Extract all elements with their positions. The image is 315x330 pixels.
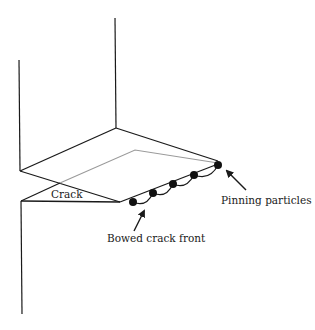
upper-face-back-edge xyxy=(116,128,218,161)
pinning-particle xyxy=(214,161,222,169)
pinning-particle xyxy=(169,180,177,188)
bowed-crack-front-arrow xyxy=(134,211,144,231)
diagram-svg: Crack Pinning particles Bowed crack fron… xyxy=(0,0,315,330)
left-lower-vertical-edge xyxy=(21,201,22,314)
crack-label: Crack xyxy=(51,188,83,200)
pinning-particles-label: Pinning particles xyxy=(221,194,312,206)
crack-front-line xyxy=(120,164,218,202)
back-vertical-edge xyxy=(115,18,116,128)
pinning-particle xyxy=(190,171,198,179)
pinning-particle xyxy=(149,189,157,197)
crack-pinning-diagram: Crack Pinning particles Bowed crack fron… xyxy=(0,0,315,330)
pinning-particle xyxy=(129,198,137,206)
bowed-crack-front-label: Bowed crack front xyxy=(107,232,206,244)
pinning-particles-arrow xyxy=(227,171,246,190)
left-upper-vertical-edge xyxy=(19,60,20,171)
lower-face-front-edge xyxy=(21,201,120,202)
